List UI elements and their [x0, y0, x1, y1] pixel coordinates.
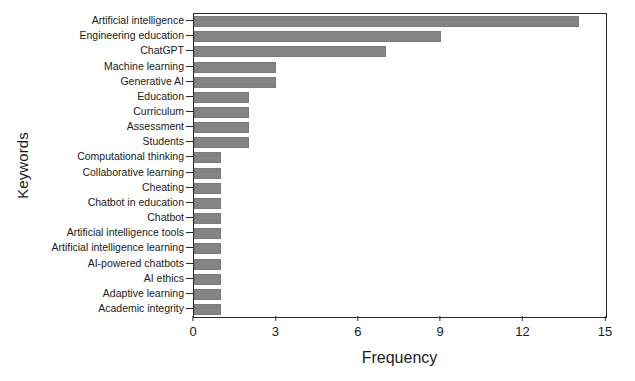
- x-axis-tick-mark: [522, 316, 523, 321]
- y-axis-tick-mark-row: [186, 89, 193, 104]
- x-axis-tick-label: 12: [515, 324, 529, 339]
- y-axis-tick-labels: Artificial intelligenceEngineering educa…: [30, 13, 189, 316]
- x-axis-tick-label: 3: [272, 324, 279, 339]
- y-axis-tick-mark-row: [186, 256, 193, 271]
- bar: [194, 198, 221, 209]
- y-axis-tick-mark: [186, 81, 193, 82]
- bar-row: [194, 44, 606, 59]
- bar-row: [194, 302, 606, 317]
- bar: [194, 259, 221, 270]
- y-axis-tick-marks: [186, 13, 193, 316]
- bar-row: [194, 59, 606, 74]
- y-axis-tick-mark-row: [186, 240, 193, 255]
- bar: [194, 31, 441, 42]
- y-axis-tick-label-row: Students: [30, 134, 189, 149]
- y-axis-tick-label-row: AI ethics: [30, 271, 189, 286]
- bar-row: [194, 196, 606, 211]
- y-axis-tick-mark-row: [186, 43, 193, 58]
- x-axis-tick-label: 0: [189, 324, 196, 339]
- y-axis-tick-label-row: Engineering education: [30, 28, 189, 43]
- y-axis-tick-label: Artificial intelligence tools: [67, 227, 184, 238]
- bar-row: [194, 287, 606, 302]
- bar: [194, 46, 386, 57]
- x-axis-tick-mark: [192, 316, 193, 321]
- y-axis-title-text: Keywords: [14, 132, 31, 199]
- y-axis-tick-label: ChatGPT: [140, 45, 184, 56]
- x-axis-tick-mark: [275, 316, 276, 321]
- y-axis-tick-mark-row: [186, 58, 193, 73]
- y-axis-tick-label-row: Academic integrity: [30, 301, 189, 316]
- y-axis-tick-mark: [186, 187, 193, 188]
- y-axis-tick-label-row: Artificial intelligence: [30, 13, 189, 28]
- bar-row: [194, 181, 606, 196]
- y-axis-tick-mark: [186, 308, 193, 309]
- y-axis-tick-label-row: Collaborative learning: [30, 165, 189, 180]
- bar: [194, 137, 249, 148]
- y-axis-tick-mark-row: [186, 180, 193, 195]
- y-axis-tick-label-row: Education: [30, 89, 189, 104]
- x-axis-ticks: 03691215: [193, 316, 606, 346]
- y-axis-tick-mark-row: [186, 134, 193, 149]
- y-axis-tick-mark-row: [186, 225, 193, 240]
- bar-row: [194, 257, 606, 272]
- plot-area: [193, 13, 607, 318]
- y-axis-tick-label-row: Machine learning: [30, 58, 189, 73]
- bar-row: [194, 166, 606, 181]
- y-axis-tick-mark-row: [186, 28, 193, 43]
- bar-row: [194, 135, 606, 150]
- y-axis-tick-mark: [186, 96, 193, 97]
- y-axis-tick-label: Collaborative learning: [82, 167, 184, 178]
- y-axis-tick-mark: [186, 141, 193, 142]
- y-axis-tick-label-row: Chatbot: [30, 210, 189, 225]
- bar: [194, 243, 221, 254]
- x-axis-tick: 0: [189, 316, 196, 339]
- x-axis-tick-label: 9: [437, 324, 444, 339]
- y-axis-tick-mark: [186, 156, 193, 157]
- bar: [194, 92, 249, 103]
- bar: [194, 107, 249, 118]
- y-axis-tick-label-row: Adaptive learning: [30, 286, 189, 301]
- y-axis-tick-label: AI ethics: [144, 273, 184, 284]
- y-axis-tick-mark: [186, 172, 193, 173]
- y-axis-tick-label: Chatbot: [147, 212, 184, 223]
- y-axis-tick-label-row: Assessment: [30, 119, 189, 134]
- y-axis-tick-mark-row: [186, 149, 193, 164]
- y-axis-tick-label: Artificial intelligence learning: [52, 242, 185, 253]
- y-axis-tick-label: Artificial intelligence: [92, 15, 184, 26]
- bar: [194, 183, 221, 194]
- y-axis-tick-label: Curriculum: [133, 106, 184, 117]
- y-axis-tick-mark: [186, 293, 193, 294]
- y-axis-tick-label: Cheating: [142, 182, 184, 193]
- y-axis-tick-label: Generative AI: [120, 76, 184, 87]
- y-axis-tick-mark-row: [186, 74, 193, 89]
- y-axis-tick-label: Assessment: [127, 121, 184, 132]
- bar: [194, 62, 276, 73]
- y-axis-tick-mark-row: [186, 13, 193, 28]
- y-axis-tick-label: Academic integrity: [98, 303, 184, 314]
- y-axis-tick-mark-row: [186, 286, 193, 301]
- y-axis-tick-label-row: ChatGPT: [30, 43, 189, 58]
- bar: [194, 274, 221, 285]
- bar: [194, 304, 221, 315]
- x-axis-tick-mark: [605, 316, 606, 321]
- x-axis-tick: 3: [272, 316, 279, 339]
- bar-row: [194, 120, 606, 135]
- y-axis-tick-label-row: Artificial intelligence learning: [30, 240, 189, 255]
- y-axis-tick-mark-row: [186, 301, 193, 316]
- bar-series: [194, 14, 606, 317]
- y-axis-tick-label-row: Cheating: [30, 180, 189, 195]
- y-axis-tick-mark: [186, 247, 193, 248]
- y-axis-tick-mark: [186, 111, 193, 112]
- y-axis-tick-mark: [186, 278, 193, 279]
- y-axis-tick-mark: [186, 232, 193, 233]
- y-axis-tick-mark-row: [186, 104, 193, 119]
- y-axis-tick-label: Computational thinking: [77, 151, 184, 162]
- y-axis-tick-mark-row: [186, 271, 193, 286]
- y-axis-tick-mark: [186, 20, 193, 21]
- y-axis-tick-label-row: Chatbot in education: [30, 195, 189, 210]
- x-axis-tick: 15: [598, 316, 612, 339]
- bar-row: [194, 241, 606, 256]
- bar-row: [194, 211, 606, 226]
- x-axis-tick: 9: [437, 316, 444, 339]
- y-axis-tick-mark: [186, 217, 193, 218]
